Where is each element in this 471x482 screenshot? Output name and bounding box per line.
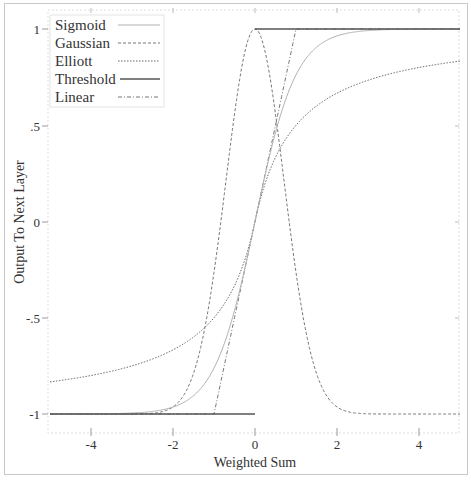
- x-tick-label: 0: [252, 437, 259, 452]
- x-tick-label: 4: [416, 437, 423, 452]
- y-tick-label: 1: [34, 22, 41, 37]
- legend-label-elliott: Elliott: [55, 53, 93, 69]
- y-tick-label: 0: [34, 215, 41, 230]
- x-tick-label: -2: [168, 437, 179, 452]
- legend-label-sigmoid: Sigmoid: [55, 17, 106, 33]
- y-tick-label: -.5: [26, 311, 40, 326]
- line-chart: 1 .5 0 -.5 -1 -4 -2 0 2 4 Weighted Sum O…: [0, 0, 471, 482]
- y-tick-label: -1: [29, 407, 40, 422]
- y-axis-title: Output To Next Layer: [12, 160, 27, 284]
- legend-label-gaussian: Gaussian: [55, 35, 110, 51]
- x-axis-title: Weighted Sum: [214, 455, 297, 470]
- legend-label-threshold: Threshold: [55, 71, 116, 87]
- legend: Sigmoid Gaussian Elliott Threshold Linea…: [50, 15, 164, 107]
- y-tick-label: .5: [30, 119, 40, 134]
- legend-label-linear: Linear: [55, 89, 94, 105]
- x-tick-label: 2: [334, 437, 341, 452]
- x-tick-label: -4: [86, 437, 97, 452]
